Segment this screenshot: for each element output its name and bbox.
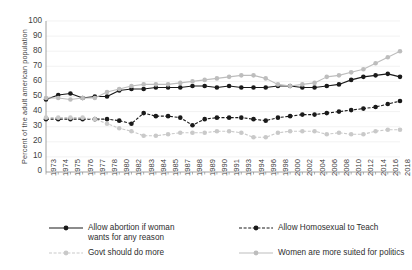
data-point <box>300 112 305 117</box>
data-point <box>105 94 110 99</box>
data-point <box>105 90 110 95</box>
x-tick-1991: 1991 <box>232 159 241 176</box>
data-point <box>178 81 183 86</box>
data-point <box>129 129 134 134</box>
x-tick-1975: 1975 <box>73 159 82 176</box>
data-point <box>227 84 232 89</box>
data-point <box>154 133 159 138</box>
series-line <box>46 118 400 138</box>
data-point <box>276 115 281 120</box>
data-point <box>312 81 317 86</box>
data-point <box>117 126 122 131</box>
data-point <box>251 135 256 140</box>
x-tick-1985: 1985 <box>171 159 180 176</box>
data-point <box>190 123 195 128</box>
data-point <box>129 121 134 126</box>
x-tick-2016: 2016 <box>391 159 400 176</box>
data-point <box>227 129 232 134</box>
data-point <box>202 130 207 135</box>
data-point <box>154 82 159 87</box>
data-point <box>263 85 268 90</box>
data-point <box>373 73 378 78</box>
data-point <box>349 78 354 83</box>
data-point <box>263 118 268 123</box>
x-tick-1988: 1988 <box>195 159 204 176</box>
data-point <box>202 117 207 122</box>
series-4 <box>44 49 403 102</box>
data-point <box>324 132 329 137</box>
legend-label: Govt should do more <box>88 248 164 258</box>
data-point <box>288 84 293 89</box>
data-point <box>215 129 220 134</box>
data-point <box>44 96 49 101</box>
legend-item-govt-should-do-more[interactable]: Govt should do more <box>48 248 164 258</box>
data-point <box>312 85 317 90</box>
legend-label: Women are more suited for politics <box>278 248 404 258</box>
data-point <box>361 67 366 72</box>
data-point <box>190 79 195 84</box>
data-point <box>227 115 232 120</box>
data-point <box>141 87 146 92</box>
data-point <box>337 109 342 114</box>
data-point <box>251 73 256 78</box>
x-tick-1982: 1982 <box>134 159 143 176</box>
data-point <box>300 129 305 134</box>
data-point <box>190 130 195 135</box>
data-point <box>178 130 183 135</box>
data-point <box>361 106 366 111</box>
data-point <box>337 73 342 78</box>
data-point <box>154 114 159 119</box>
data-point <box>117 87 122 92</box>
data-point <box>68 115 73 120</box>
legend-item-women-more-suited[interactable]: Women are more suited for politics <box>238 248 404 258</box>
x-tick-1994: 1994 <box>257 159 266 176</box>
data-point <box>385 127 390 132</box>
data-point <box>117 118 122 123</box>
data-point <box>300 82 305 87</box>
data-point <box>190 84 195 89</box>
legend-label: Allow Homosexual to Teach <box>278 223 378 233</box>
data-point <box>68 97 73 102</box>
chart-legend: Allow abortion if womanwants for any rea… <box>0 221 406 270</box>
data-point <box>337 82 342 87</box>
data-point <box>141 82 146 87</box>
data-point <box>141 111 146 116</box>
data-point <box>239 130 244 135</box>
x-tick-1973: 1973 <box>49 159 58 176</box>
x-tick-1977: 1977 <box>98 159 107 176</box>
data-point <box>361 75 366 80</box>
series-line <box>46 51 400 99</box>
data-point <box>93 96 98 101</box>
data-point <box>178 85 183 90</box>
x-tick-1989: 1989 <box>208 159 217 176</box>
x-tick-2012: 2012 <box>366 159 375 176</box>
data-point <box>239 73 244 78</box>
legend-marker-icon <box>48 223 84 233</box>
data-point <box>178 115 183 120</box>
legend-item-allow-abortion[interactable]: Allow abortion if womanwants for any rea… <box>48 223 174 242</box>
data-point <box>202 84 207 89</box>
series-line <box>46 101 400 125</box>
series-2 <box>44 99 403 128</box>
x-tick-1978: 1978 <box>110 159 119 176</box>
data-point <box>166 82 171 87</box>
legend-item-allow-homosexual-to-teach[interactable]: Allow Homosexual to Teach <box>238 223 378 233</box>
data-point <box>324 75 329 80</box>
legend-label: Allow abortion if womanwants for any rea… <box>88 223 174 242</box>
legend-marker-icon <box>48 248 84 258</box>
data-point <box>105 121 110 126</box>
x-tick-1983: 1983 <box>147 159 156 176</box>
data-point <box>56 96 61 101</box>
data-point <box>312 112 317 117</box>
data-point <box>385 55 390 60</box>
data-point <box>263 76 268 81</box>
data-point <box>288 129 293 134</box>
x-tick-2006: 2006 <box>330 159 339 176</box>
data-point <box>215 85 220 90</box>
data-point <box>398 49 403 54</box>
data-point <box>276 82 281 87</box>
data-point <box>215 76 220 81</box>
data-point <box>251 85 256 90</box>
data-point <box>215 115 220 120</box>
